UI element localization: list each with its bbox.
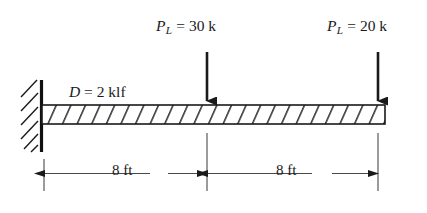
distributed-load-equals: =	[84, 83, 93, 100]
distributed-load-unit: klf	[108, 83, 125, 100]
point-load-symbol-2: P	[327, 17, 336, 34]
dimension-value-2: 8	[276, 162, 284, 178]
point-load-label-1: PL = 30 k	[156, 18, 216, 36]
dimension-unit-1: ft	[123, 162, 132, 178]
dimension-label-1: 8 ft	[112, 163, 132, 178]
point-load-magnitude-2: 20	[360, 17, 376, 34]
point-load-magnitude-1: 30	[189, 17, 205, 34]
distributed-load-symbol: D	[69, 83, 80, 100]
point-load-unit-1: k	[208, 17, 216, 34]
dimension-witness-lines	[44, 133, 378, 191]
fixed-support-group	[21, 80, 42, 152]
dimension-label-2: 8 ft	[276, 163, 296, 178]
support-hatching	[21, 80, 38, 152]
point-load-unit-2: k	[379, 17, 387, 34]
dimension-value-1: 8	[112, 162, 120, 178]
point-load-symbol-1: P	[156, 17, 165, 34]
distributed-load-label: D = 2 klf	[69, 84, 126, 100]
beam-hatch-fill	[42, 105, 385, 124]
point-load-equals-1: =	[176, 17, 185, 34]
point-load-equals-2: =	[347, 17, 356, 34]
beam-group	[42, 105, 385, 124]
dimension-unit-2: ft	[287, 162, 296, 178]
point-load-label-2: PL = 20 k	[327, 18, 387, 36]
distributed-load-magnitude: 2	[97, 83, 105, 100]
beam-diagram-figure: PL = 30 k PL = 20 k D = 2 klf 8 ft 8 ft	[0, 0, 427, 213]
